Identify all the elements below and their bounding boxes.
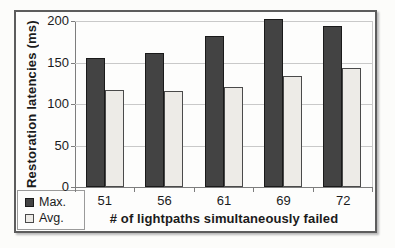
y-tick-mark-100 bbox=[71, 104, 75, 105]
x-tick-mark-4 bbox=[313, 188, 314, 192]
y-tick-label-50: 50 bbox=[16, 138, 69, 154]
x-tick-mark-1 bbox=[134, 188, 135, 192]
bar-max-61 bbox=[205, 36, 224, 187]
bar-avg-51 bbox=[105, 90, 124, 187]
x-tick-label-69: 69 bbox=[254, 193, 314, 208]
plot-area bbox=[75, 21, 372, 187]
x-tick-mark-2 bbox=[194, 188, 195, 192]
x-axis-line bbox=[75, 187, 373, 188]
x-tick-label-72: 72 bbox=[313, 193, 373, 208]
bar-max-56 bbox=[145, 53, 164, 187]
bar-avg-72 bbox=[342, 68, 361, 187]
y-tick-label-200: 200 bbox=[16, 13, 69, 29]
y-tick-mark-200 bbox=[71, 21, 75, 22]
legend: Max.Avg. bbox=[17, 190, 85, 230]
x-axis-title: # of lightpaths simultaneously failed bbox=[75, 211, 373, 226]
legend-label-max: Max. bbox=[39, 196, 66, 209]
legend-item-max: Max. bbox=[25, 196, 84, 209]
x-tick-mark-0 bbox=[75, 188, 76, 192]
bar-avg-56 bbox=[164, 91, 183, 187]
bar-max-72 bbox=[323, 26, 342, 187]
chart-figure: Restoration latencies (ms) 5156616972 # … bbox=[14, 10, 377, 233]
figure-page: Restoration latencies (ms) 5156616972 # … bbox=[0, 0, 395, 248]
y-tick-mark-50 bbox=[71, 146, 75, 147]
bar-max-69 bbox=[264, 19, 283, 187]
x-tick-mark-5 bbox=[372, 188, 373, 192]
x-axis-tick-labels: 5156616972 bbox=[75, 193, 373, 208]
bar-avg-69 bbox=[283, 76, 302, 187]
bar-avg-61 bbox=[224, 87, 243, 187]
x-tick-label-56: 56 bbox=[135, 193, 195, 208]
legend-swatch-avg bbox=[25, 214, 34, 223]
plot-area-right-border bbox=[372, 21, 373, 187]
y-tick-label-150: 150 bbox=[16, 55, 69, 71]
y-tick-label-100: 100 bbox=[16, 96, 69, 112]
y-tick-label-0: 0 bbox=[16, 179, 69, 195]
x-tick-label-61: 61 bbox=[194, 193, 254, 208]
legend-swatch-max bbox=[25, 198, 34, 207]
legend-label-avg: Avg. bbox=[39, 212, 64, 225]
gridline-200 bbox=[75, 21, 372, 22]
legend-item-avg: Avg. bbox=[25, 212, 84, 225]
y-tick-mark-150 bbox=[71, 63, 75, 64]
x-tick-mark-3 bbox=[253, 188, 254, 192]
bar-max-51 bbox=[86, 58, 105, 187]
